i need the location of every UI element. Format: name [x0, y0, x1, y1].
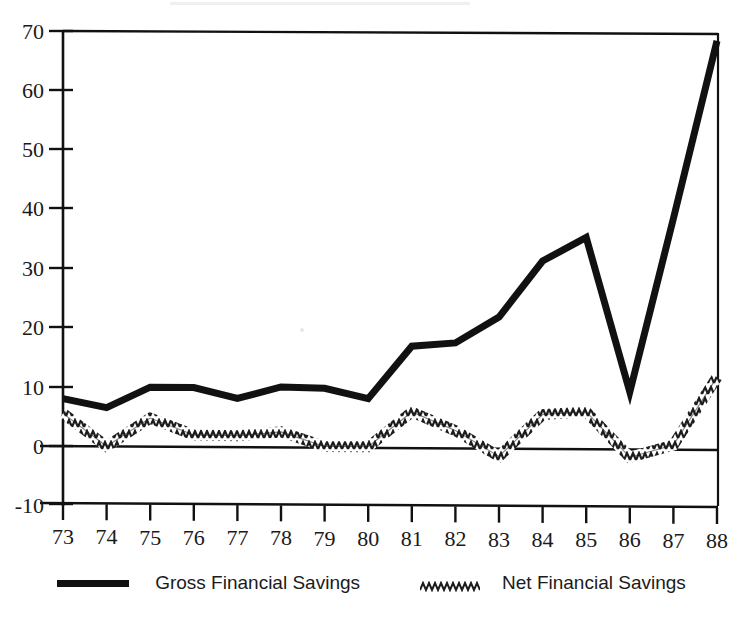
legend-label-gross: Gross Financial Savings	[155, 572, 360, 594]
x-tick-label: 76	[183, 525, 205, 548]
zigzag-line-swatch-icon	[420, 578, 480, 589]
thick-line-swatch-icon	[57, 580, 129, 587]
x-tick-label: 80	[357, 526, 379, 548]
bottom-axis	[40, 503, 718, 507]
y-tick-label: 50	[22, 137, 44, 162]
y-tick-labels: 70 60 50 40 30 20 10 0 -10	[15, 19, 44, 518]
y-tick-label: 70	[22, 19, 44, 44]
x-tick-label: 84	[532, 527, 554, 548]
series-gross-financial-savings	[63, 41, 717, 408]
y-tick-label: 30	[22, 256, 44, 281]
legend-label-net: Net Financial Savings	[502, 572, 686, 594]
x-tick-label: 86	[619, 527, 641, 548]
x-tick-label: 83	[488, 527, 510, 548]
x-tick-label: 77	[226, 525, 248, 548]
legend: Gross Financial Savings Net Financial Sa…	[0, 548, 743, 618]
y-tick-label: 0	[33, 434, 44, 459]
x-tick-label: 78	[270, 525, 292, 548]
gross-financial-savings-line	[63, 41, 717, 408]
y-tick-label: 20	[22, 315, 44, 340]
y-tick-marks	[49, 31, 73, 504]
x-tick-label: 75	[139, 525, 161, 548]
x-tick-labels: 73747576777879808182838485868788	[52, 524, 728, 548]
x-tick-label: 73	[52, 524, 74, 548]
y-tick-label: 40	[22, 196, 44, 221]
x-tick-label: 87	[662, 528, 684, 548]
x-tick-label: 88	[706, 528, 728, 548]
x-tick-label: 79	[314, 526, 336, 548]
x-tick-label: 85	[575, 527, 597, 548]
legend-entry-gross: Gross Financial Savings	[57, 572, 360, 594]
x-tick-label: 81	[401, 526, 423, 548]
y-tick-label: 60	[22, 78, 44, 103]
y-tick-label: -10	[15, 493, 44, 518]
plot-area: 70 60 50 40 30 20 10 0 -10 7374757677787…	[0, 0, 743, 548]
chart-figure: 70 60 50 40 30 20 10 0 -10 7374757677787…	[0, 0, 743, 625]
x-tick-label: 74	[96, 524, 118, 548]
x-tick-label: 82	[444, 526, 466, 548]
y-tick-label: 10	[22, 375, 44, 400]
legend-entry-net: Net Financial Savings	[420, 572, 686, 594]
zigzag-glyph-icon	[420, 581, 480, 592]
